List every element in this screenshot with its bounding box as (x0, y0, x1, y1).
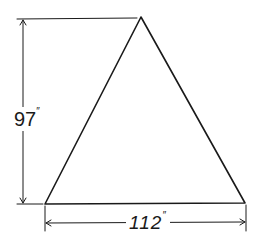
base-unit: ″ (162, 210, 167, 221)
height-dimension-label: 97″ (14, 107, 40, 131)
height-unit: ″ (36, 106, 40, 117)
base-dimension-label: 112″ (126, 213, 170, 232)
top-extension-line (17, 18, 137, 19)
triangle-shape (45, 17, 245, 204)
base-value: 112 (129, 212, 162, 233)
height-value: 97 (14, 108, 36, 130)
